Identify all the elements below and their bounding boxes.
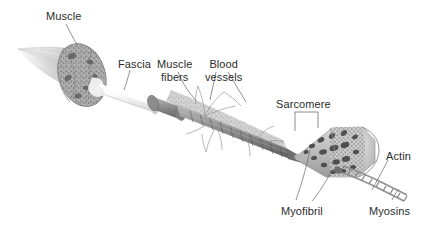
label-fascia: Fascia — [118, 58, 151, 71]
leader-muscle — [66, 24, 78, 46]
leader-fascia — [124, 70, 130, 90]
diagram-artwork — [0, 0, 428, 238]
muscle-belly-shape — [16, 37, 114, 112]
label-sarcomere: Sarcomere — [276, 98, 331, 111]
label-actin: Actin — [386, 150, 411, 163]
label-myosins: Myosins — [369, 205, 410, 218]
muscle-anatomy-diagram: Muscle Fascia Muscle fibers Blood vessel… — [0, 0, 428, 238]
sarcomere-bracket — [295, 112, 318, 131]
label-muscle: Muscle — [46, 10, 81, 23]
label-blood-vessels: Blood vessels — [205, 58, 242, 83]
label-muscle-fibers: Muscle fibers — [157, 58, 192, 83]
label-myofibril: Myofibril — [281, 205, 323, 218]
